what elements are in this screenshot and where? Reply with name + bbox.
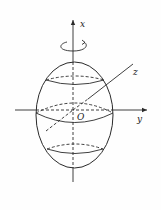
x-axis-label: x [80, 20, 85, 29]
ellipsoid-outline [36, 62, 113, 168]
z-axis-label: z [133, 68, 138, 77]
origin-label: O [77, 113, 84, 122]
rotation-arrow-icon [61, 40, 86, 51]
y-axis-label: y [137, 115, 142, 124]
diagram-canvas: x z y O [0, 0, 161, 210]
ellipsoid-diagram [0, 0, 161, 210]
equator-circle [36, 103, 113, 123]
upper-circle [46, 76, 104, 85]
lower-circle [47, 144, 103, 154]
